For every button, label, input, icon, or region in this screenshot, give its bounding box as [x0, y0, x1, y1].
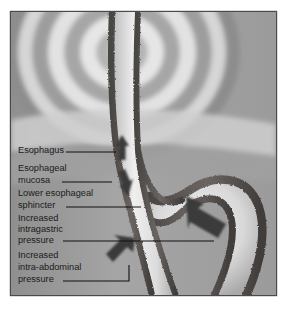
label-increased-intragastric-pressure-line2: intragastric — [18, 224, 63, 234]
illustration-canvas: Esophagus Esophageal mucosa Lower esopha… — [0, 0, 286, 310]
label-increased-intra-abdominal-pressure-line1: Increased — [18, 250, 58, 260]
label-esophageal-mucosa-line1: Esophageal — [18, 163, 67, 173]
label-lower-esophageal-sphincter-line2: sphincter — [18, 200, 55, 210]
medical-illustration: Esophagus Esophageal mucosa Lower esopha… — [0, 0, 286, 310]
label-esophagus: Esophagus — [18, 145, 64, 155]
label-lower-esophageal-sphincter-line1: Lower esophageal — [18, 188, 93, 198]
label-increased-intragastric-pressure-line1: Increased — [18, 213, 58, 223]
label-increased-intragastric-pressure-line3: pressure — [18, 235, 54, 245]
label-increased-intra-abdominal-pressure-line2: intra-abdominal — [18, 262, 81, 272]
label-increased-intra-abdominal-pressure-line3: pressure — [18, 274, 54, 284]
label-esophageal-mucosa-line2: mucosa — [18, 175, 51, 185]
